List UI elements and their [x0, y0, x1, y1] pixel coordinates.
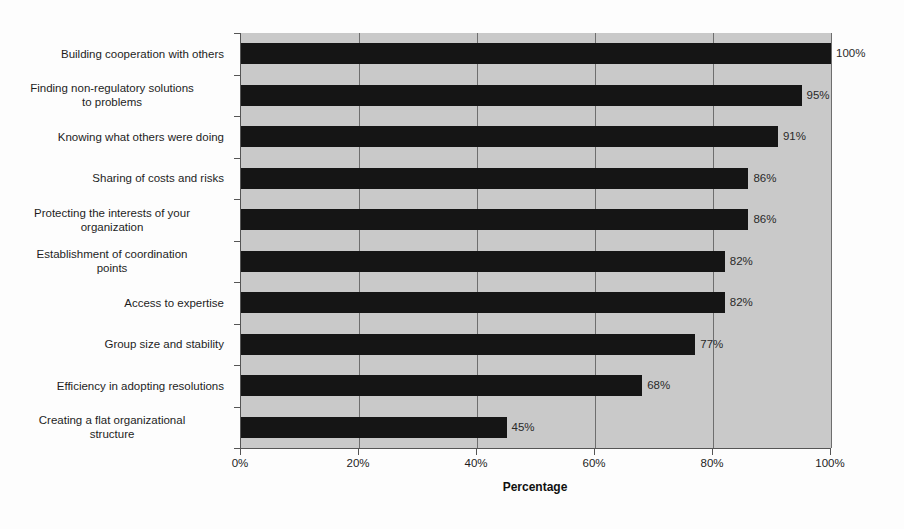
category-label: Finding non-regulatory solutionsto probl… — [0, 75, 232, 117]
bar-row[interactable]: 100% — [241, 33, 831, 75]
value-tick-label: 100% — [815, 457, 844, 469]
category-label: Building cooperation with others — [0, 33, 232, 75]
bar-row[interactable]: 82% — [241, 282, 831, 324]
value-axis-title: Percentage — [240, 480, 830, 494]
value-tick-label: 40% — [464, 457, 487, 469]
category-label-text: Creating a flat organizationalstructure — [39, 413, 185, 441]
category-label: Group size and stability — [0, 324, 232, 366]
gridline-100pct — [831, 33, 832, 448]
category-label-text: Establishment of coordinationpoints — [37, 247, 188, 275]
bar[interactable] — [241, 168, 748, 189]
bar-value-label: 45% — [512, 422, 535, 434]
bar[interactable] — [241, 334, 695, 355]
category-label-text: Knowing what others were doing — [58, 130, 224, 144]
category-label: Efficiency in adopting resolutions — [0, 365, 232, 407]
category-label: Sharing of costs and risks — [0, 158, 232, 200]
bar[interactable] — [241, 209, 748, 230]
value-axis-tick-labels: 0%20%40%60%80%100% — [240, 457, 830, 473]
value-tick-label: 60% — [582, 457, 605, 469]
plot-area: 100%95%91%86%86%82%82%77%68%45% — [240, 33, 831, 449]
bar-row[interactable]: 86% — [241, 199, 831, 241]
bar-value-label: 86% — [753, 173, 776, 185]
category-label-text: Group size and stability — [104, 337, 224, 351]
value-tick — [830, 449, 831, 455]
bar-row[interactable]: 77% — [241, 324, 831, 366]
category-label: Establishment of coordinationpoints — [0, 241, 232, 283]
value-tick-label: 0% — [232, 457, 249, 469]
category-label: Protecting the interests of yourorganiza… — [0, 199, 232, 241]
value-tick-label: 80% — [700, 457, 723, 469]
bar-row[interactable]: 68% — [241, 365, 831, 407]
category-label: Knowing what others were doing — [0, 116, 232, 158]
value-tick-label: 20% — [346, 457, 369, 469]
bar-row[interactable]: 82% — [241, 241, 831, 283]
value-axis-tick-marks — [240, 449, 830, 455]
bar-chart-figure: Building cooperation with othersFinding … — [0, 0, 904, 529]
category-label-text: Building cooperation with others — [61, 47, 224, 61]
bar[interactable] — [241, 43, 831, 64]
value-tick — [240, 449, 241, 455]
bar-row[interactable]: 91% — [241, 116, 831, 158]
value-tick — [712, 449, 713, 455]
bar-row[interactable]: 86% — [241, 158, 831, 200]
value-tick — [476, 449, 477, 455]
category-label-text: Finding non-regulatory solutionsto probl… — [30, 81, 194, 109]
value-tick — [594, 449, 595, 455]
bar-value-label: 82% — [730, 297, 753, 309]
bars-layer: 100%95%91%86%86%82%82%77%68%45% — [241, 33, 831, 448]
bar[interactable] — [241, 375, 642, 396]
bar[interactable] — [241, 126, 778, 147]
bar-row[interactable]: 45% — [241, 407, 831, 449]
category-label: Creating a flat organizationalstructure — [0, 407, 232, 449]
bar-value-label: 100% — [836, 48, 865, 60]
bar-value-label: 91% — [783, 131, 806, 143]
bar[interactable] — [241, 417, 507, 438]
category-label-text: Sharing of costs and risks — [92, 171, 224, 185]
bar-value-label: 86% — [753, 214, 776, 226]
category-axis-tick-marks — [233, 33, 240, 448]
category-label: Access to expertise — [0, 282, 232, 324]
category-label-text: Access to expertise — [124, 296, 224, 310]
bar[interactable] — [241, 251, 725, 272]
bar-value-label: 68% — [647, 380, 670, 392]
category-axis-labels: Building cooperation with othersFinding … — [0, 33, 232, 448]
category-label-text: Efficiency in adopting resolutions — [57, 379, 224, 393]
bar-value-label: 82% — [730, 256, 753, 268]
bar[interactable] — [241, 292, 725, 313]
value-tick — [358, 449, 359, 455]
category-label-text: Protecting the interests of yourorganiza… — [34, 206, 190, 234]
bar-value-label: 95% — [807, 90, 830, 102]
bar-value-label: 77% — [700, 339, 723, 351]
bar-row[interactable]: 95% — [241, 75, 831, 117]
bar[interactable] — [241, 85, 802, 106]
